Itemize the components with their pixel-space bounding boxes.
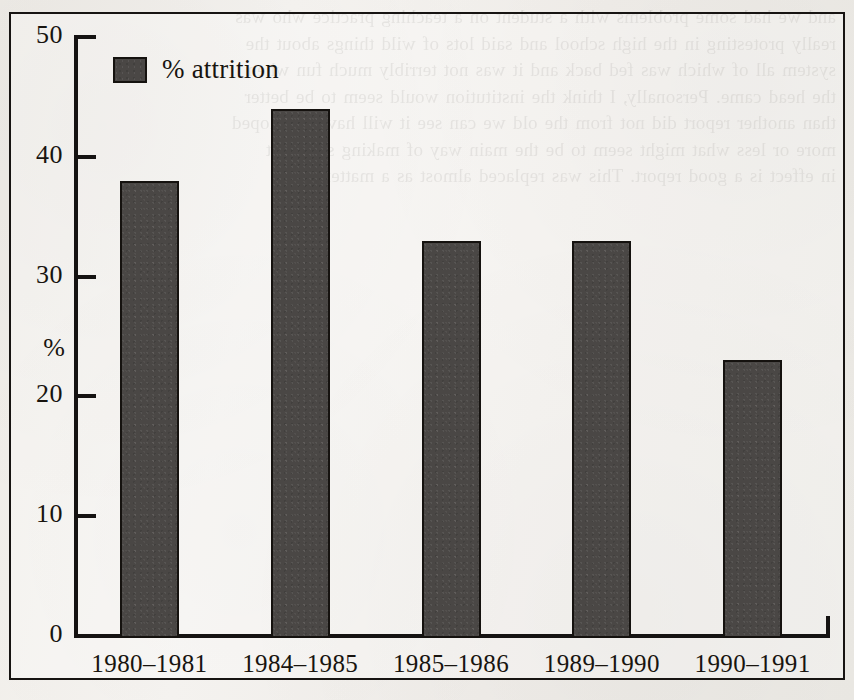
bar-1[interactable]: [120, 181, 179, 638]
y-axis-tick: [74, 155, 96, 159]
chart-legend: % attrition: [113, 54, 279, 85]
y-tick-label: 10: [36, 499, 63, 529]
bar-4[interactable]: [572, 241, 631, 638]
bar-2[interactable]: [271, 109, 330, 638]
x-tick-label-5: 1990–1991: [677, 650, 828, 678]
legend-label-attrition: % attrition: [162, 54, 279, 85]
bar-5[interactable]: [723, 360, 782, 638]
y-tick-label: 20: [36, 379, 63, 409]
y-axis-title: %: [19, 333, 65, 363]
x-tick-label-1: 1980–1981: [74, 650, 225, 678]
scanned-page: and we had some problems with a student …: [0, 0, 854, 700]
y-tick-label: 50: [36, 20, 63, 50]
x-tick-label-2: 1984–1985: [225, 650, 376, 678]
chart-frame: 01020304050%1980–19811984–19851985–19861…: [9, 12, 845, 680]
chart-plot-area: 01020304050%1980–19811984–19851985–19861…: [11, 14, 843, 678]
y-axis-tick: [74, 514, 96, 518]
y-axis-tick: [74, 394, 96, 398]
y-axis-tick: [74, 35, 96, 39]
x-axis-end-tick: [826, 616, 830, 635]
y-tick-label: 0: [50, 619, 64, 649]
bar-3[interactable]: [422, 241, 481, 638]
y-tick-label: 40: [36, 140, 63, 170]
y-axis-tick: [74, 275, 96, 279]
x-tick-label-3: 1985–1986: [376, 650, 527, 678]
y-axis-line: [74, 35, 78, 638]
x-tick-label-4: 1989–1990: [526, 650, 677, 678]
legend-swatch-attrition: [113, 57, 147, 83]
y-tick-label: 30: [36, 260, 63, 290]
